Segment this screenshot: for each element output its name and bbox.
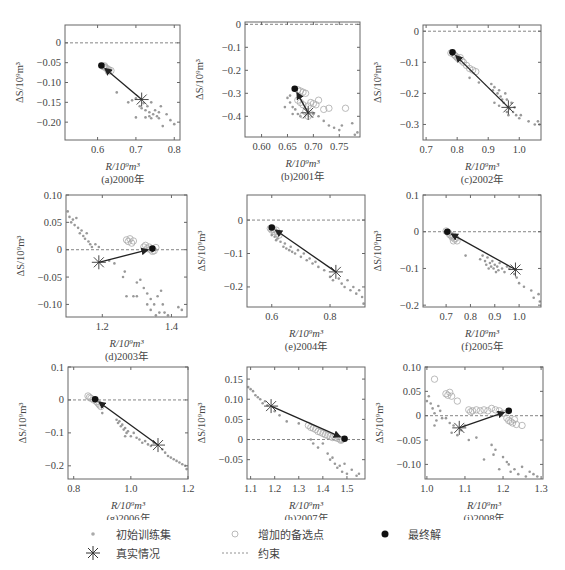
training-point xyxy=(147,443,150,446)
training-point xyxy=(144,109,147,112)
y-tick-label: 0 xyxy=(238,434,243,445)
training-point xyxy=(124,435,127,438)
training-point xyxy=(346,279,349,282)
training-point xyxy=(478,81,481,84)
final-solution-point xyxy=(444,228,451,235)
training-point xyxy=(350,468,353,471)
training-point xyxy=(334,462,337,465)
y-tick-label: −0.1 xyxy=(45,427,64,438)
training-point xyxy=(337,277,340,280)
training-point xyxy=(441,417,444,420)
plot-frame xyxy=(425,367,543,479)
y-tick-label: −0.20 xyxy=(37,117,61,128)
training-point xyxy=(169,119,172,122)
y-tick-label: −0.05 xyxy=(219,454,243,465)
y-tick-label: −0.05 xyxy=(38,272,62,283)
x-tick-label: 1.0 xyxy=(513,144,526,155)
training-point xyxy=(142,287,145,290)
training-point xyxy=(289,94,292,97)
x-tick-label: 0.6 xyxy=(91,144,104,155)
training-point xyxy=(515,114,518,117)
panel-2: 0.70.80.91.00−0.1−0.2−0.3R/10⁹m³ΔS/10⁹m³… xyxy=(372,25,541,186)
training-point xyxy=(291,251,294,254)
training-point xyxy=(101,412,104,415)
training-point xyxy=(499,95,502,98)
training-point xyxy=(138,105,141,108)
training-point xyxy=(72,218,75,221)
training-point xyxy=(70,221,73,224)
training-point xyxy=(326,452,329,455)
training-point xyxy=(66,210,69,213)
panel-caption: (h)2007年 xyxy=(284,512,327,520)
training-point xyxy=(506,111,509,114)
training-point xyxy=(178,461,181,464)
training-point xyxy=(118,420,121,423)
true-point-marker xyxy=(135,93,149,107)
training-point xyxy=(498,262,501,265)
y-tick-label: −0.2 xyxy=(400,300,419,311)
training-point xyxy=(73,224,76,227)
training-point xyxy=(343,462,346,465)
training-point xyxy=(156,295,159,298)
training-point xyxy=(492,267,495,270)
training-point xyxy=(160,105,163,108)
training-point xyxy=(496,92,499,95)
training-point xyxy=(517,473,520,476)
candidate-point xyxy=(448,393,454,399)
training-point xyxy=(91,246,94,249)
legend-item-true: 真实情况 xyxy=(78,545,160,561)
x-axis-label: R/10⁹m³ xyxy=(284,158,320,169)
training-point xyxy=(294,252,297,255)
training-point xyxy=(121,423,124,426)
training-point xyxy=(297,113,300,116)
x-tick-label: 0.9 xyxy=(488,311,501,322)
x-tick-label: 0.75 xyxy=(330,141,348,152)
x-tick-label: 0.8 xyxy=(464,311,477,322)
training-point xyxy=(297,249,300,252)
training-point xyxy=(498,105,501,108)
training-point xyxy=(141,441,144,444)
candidate-point xyxy=(519,422,525,428)
training-point xyxy=(528,470,531,473)
training-point xyxy=(497,269,500,272)
training-point xyxy=(484,260,487,263)
training-point xyxy=(138,438,141,441)
y-tick-label: −0.2 xyxy=(45,460,64,471)
training-point xyxy=(351,122,354,125)
training-point xyxy=(507,463,510,466)
training-point xyxy=(323,269,326,272)
training-point xyxy=(257,396,260,399)
arrow-line xyxy=(276,230,336,272)
x-tick-label: 0.8 xyxy=(451,144,464,155)
training-point xyxy=(282,246,285,249)
x-tick-label: 1.4 xyxy=(316,483,330,494)
x-tick-label: 1.2 xyxy=(496,483,509,494)
y-axis-label: ΔS/10⁹m³ xyxy=(196,403,207,444)
training-point xyxy=(341,470,344,473)
training-point xyxy=(285,247,288,250)
y-axis-label: ΔS/10⁹m³ xyxy=(374,403,385,444)
panel-caption: (g)2006年 xyxy=(106,512,149,520)
training-point xyxy=(167,314,170,317)
training-point xyxy=(445,417,448,420)
panel-caption: (f)2005年 xyxy=(461,340,503,353)
training-point xyxy=(530,289,533,292)
training-point xyxy=(75,217,78,220)
plot-area xyxy=(247,386,365,477)
small-dot-icon xyxy=(78,530,108,538)
training-point xyxy=(429,402,432,405)
plot-area xyxy=(66,210,187,317)
training-point xyxy=(456,434,459,437)
open-circle-icon xyxy=(220,529,250,539)
training-point xyxy=(493,263,496,266)
x-tick-label: 0.8 xyxy=(323,311,336,322)
training-point xyxy=(115,418,118,421)
training-point xyxy=(181,463,184,466)
y-tick-label: 0 xyxy=(56,37,61,48)
panel-3: 1.21.40.100.050−0.05−0.10R/10⁹m³ΔS/10⁹m³… xyxy=(15,190,187,364)
legend-item-training: 初始训练集 xyxy=(78,526,171,542)
training-point xyxy=(503,271,506,274)
training-point xyxy=(494,448,497,451)
y-tick-label: 0.05 xyxy=(225,414,243,425)
y-tick-label: −0.10 xyxy=(397,459,421,470)
